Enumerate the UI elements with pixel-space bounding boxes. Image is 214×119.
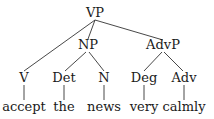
node-det: Det (52, 71, 75, 85)
branch-advp-deg (144, 52, 162, 71)
branch-np-det (65, 52, 86, 71)
node-np: NP (78, 38, 98, 52)
node-deg: Deg (131, 71, 157, 85)
branch-np-n (89, 52, 104, 71)
word-accept: accept (2, 100, 46, 114)
node-v: V (19, 71, 28, 85)
word-the: the (53, 100, 74, 114)
word-very: very (130, 100, 159, 114)
syntax-tree: VP NP AdvP V Det N Deg Adv accept the ne… (0, 0, 214, 119)
node-n: N (98, 71, 109, 85)
node-advp: AdvP (146, 38, 180, 52)
word-news: news (87, 100, 121, 114)
branch-advp-adv (164, 52, 183, 71)
node-adv: Adv (171, 71, 196, 85)
node-vp: VP (86, 6, 104, 20)
word-calmly: calmly (162, 100, 205, 114)
